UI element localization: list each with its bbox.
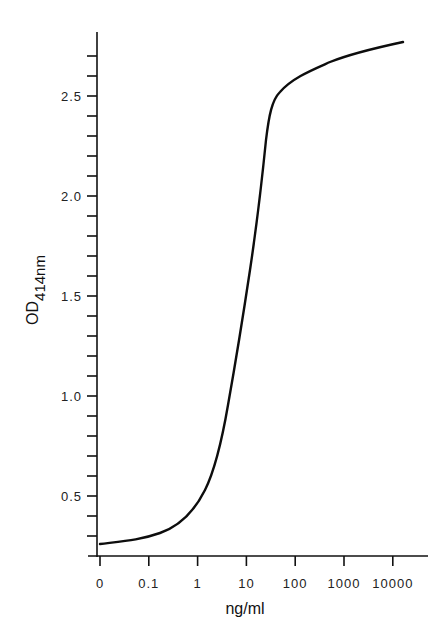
chart-canvas: 0.51.01.52.02.5 00.1110100100010000 OD41…	[0, 0, 448, 641]
y-tick-label: 1.0	[61, 389, 82, 404]
x-tick-label: 1	[193, 576, 201, 591]
x-axis-ticks: 00.1110100100010000	[96, 556, 413, 591]
x-axis-title: ng/ml	[225, 600, 264, 617]
y-tick-label: 2.0	[61, 189, 82, 204]
y-axis-title-main: OD	[24, 301, 41, 325]
y-axis-ticks: 0.51.01.52.02.5	[61, 56, 97, 536]
y-axis-title: OD414nm	[24, 255, 48, 325]
standard-curve-line	[100, 42, 403, 544]
x-tick-label: 10	[238, 576, 254, 591]
y-tick-label: 2.5	[61, 89, 82, 104]
x-tick-label: 100	[283, 576, 308, 591]
y-tick-label: 1.5	[61, 289, 82, 304]
x-tick-label: 10000	[372, 576, 413, 591]
x-tick-label: 0.1	[138, 576, 159, 591]
y-axis-title-subscript: 414nm	[31, 255, 48, 301]
x-tick-label: 0	[96, 576, 104, 591]
y-tick-label: 0.5	[61, 489, 82, 504]
svg-text:OD414nm: OD414nm	[24, 255, 48, 325]
x-tick-label: 1000	[328, 576, 361, 591]
